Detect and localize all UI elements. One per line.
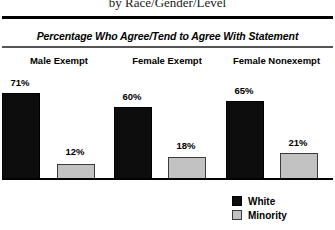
bar-value-minority-female-exempt: 18% (164, 140, 208, 151)
x-axis-baseline (2, 178, 333, 180)
legend-label-minority: Minority (248, 210, 287, 221)
legend-item-minority: Minority (232, 208, 287, 222)
bar-minority-female-nonexempt (280, 153, 318, 179)
bar-minority-male-exempt (57, 164, 95, 179)
bar-value-minority-female-nonexempt: 21% (276, 137, 320, 148)
title-divider-rule (2, 16, 333, 19)
gray-square-icon (232, 210, 242, 220)
chart-title: by Race/Gender/Level (0, 0, 335, 11)
plot-area: 71% 12% 60% 18% 65% 21% (0, 60, 335, 179)
legend-label-white: White (248, 196, 275, 207)
black-square-icon (232, 196, 242, 206)
bar-white-female-exempt (114, 107, 152, 179)
bar-white-female-nonexempt (226, 101, 264, 179)
subtitle-divider-rule (2, 46, 333, 48)
legend-item-white: White (232, 194, 287, 208)
chart-subtitle: Percentage Who Agree/Tend to Agree With … (0, 30, 335, 42)
bar-white-male-exempt (2, 93, 40, 179)
bar-minority-female-exempt (168, 157, 206, 179)
chart-legend: White Minority (232, 194, 287, 222)
bar-value-white-female-nonexempt: 65% (222, 85, 266, 96)
chart-figure: by Race/Gender/Level Percentage Who Agre… (0, 0, 335, 230)
bar-value-minority-male-exempt: 12% (53, 146, 97, 157)
bar-value-white-female-exempt: 60% (110, 91, 154, 102)
bar-value-white-male-exempt: 71% (0, 77, 42, 88)
